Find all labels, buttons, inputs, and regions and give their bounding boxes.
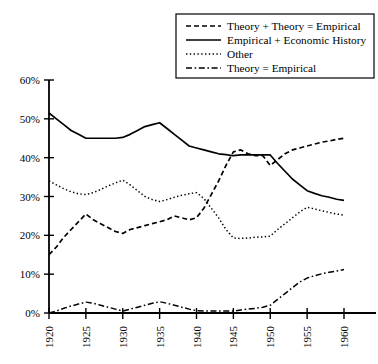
series-group — [49, 113, 344, 313]
y-tick-label: 20% — [20, 229, 40, 241]
legend-label-2: Other — [227, 48, 253, 60]
legend-label-0: Theory + Theory = Empirical — [227, 20, 361, 32]
y-tick-label: 0% — [25, 307, 40, 319]
y-tick-label: 30% — [20, 191, 40, 203]
x-tick-label: 1950 — [264, 326, 276, 349]
x-tick-label: 1955 — [301, 326, 313, 349]
chart-container: 0%10%20%30%40%50%60%19201925193019351940… — [0, 0, 378, 364]
y-tick-label: 50% — [20, 113, 40, 125]
y-tick-label: 40% — [20, 152, 40, 164]
series-line-1 — [49, 113, 344, 200]
y-tick-label: 60% — [20, 74, 40, 86]
legend: Theory + Theory = EmpiricalEmpirical + E… — [176, 14, 374, 78]
x-tick-label: 1920 — [43, 326, 55, 349]
x-tick-label: 1945 — [227, 326, 239, 349]
x-axis-ticks: 192019251930193519401945195019551960 — [43, 308, 350, 348]
y-tick-label: 10% — [20, 268, 40, 280]
x-tick-label: 1960 — [338, 326, 350, 349]
series-line-0 — [49, 138, 344, 255]
x-tick-label: 1940 — [191, 326, 203, 349]
legend-label-3: Theory = Empirical — [227, 62, 316, 74]
x-tick-label: 1935 — [154, 326, 166, 349]
legend-label-1: Empirical + Economic History — [227, 34, 366, 46]
x-tick-label: 1925 — [80, 326, 92, 349]
x-tick-label: 1930 — [117, 326, 129, 349]
line-chart: 0%10%20%30%40%50%60%19201925193019351940… — [0, 0, 378, 364]
series-line-2 — [49, 180, 344, 238]
series-line-3 — [49, 270, 344, 313]
